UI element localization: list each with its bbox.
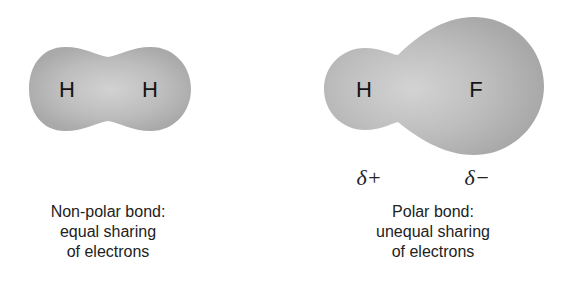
polar-caption-line-2: unequal sharing: [376, 222, 490, 242]
hh-atom-left-label: H: [59, 79, 75, 101]
nonpolar-caption-line-2: equal sharing: [51, 222, 166, 242]
hh-atom-right-label: H: [142, 79, 158, 101]
hf-hydrogen-label: H: [356, 79, 372, 101]
partial-positive-charge: δ+: [356, 167, 381, 189]
bond-polarity-diagram: H H H F δ+ δ− Non-polar bond: equal shar…: [0, 0, 572, 285]
polar-caption-line-1: Polar bond:: [376, 202, 490, 222]
polar-caption: Polar bond: unequal sharing of electrons: [376, 202, 490, 262]
hh-electron-cloud: [29, 47, 191, 131]
partial-negative-charge: δ−: [464, 167, 489, 189]
hf-fluorine-label: F: [469, 79, 482, 101]
nonpolar-caption-line-1: Non-polar bond:: [51, 202, 166, 222]
nonpolar-caption: Non-polar bond: equal sharing of electro…: [51, 202, 166, 262]
polar-caption-line-3: of electrons: [376, 242, 490, 262]
nonpolar-caption-line-3: of electrons: [51, 242, 166, 262]
